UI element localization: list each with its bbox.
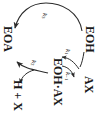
reaction-cycle-diagram: EOA EOH EOH·AX AX H + X k3 k2 k1 k−1 [0, 0, 100, 119]
rate-k2-subscript: 2 [30, 63, 35, 66]
species-label-eoa: EOA [2, 26, 14, 52]
rate-label-k2: k2 [30, 60, 37, 66]
connector-eoh-to-binding [80, 52, 84, 67]
species-label-complex: EOH·AX [52, 58, 64, 106]
rate-k1-subscript: 1 [64, 52, 69, 55]
species-label-ax: AX [83, 76, 95, 93]
species-label-products: H + X [12, 80, 24, 111]
rate-kminus1-subscript: −1 [64, 75, 69, 80]
species-label-eoh: EOH [84, 26, 96, 53]
rate-label-k1: k1 [64, 49, 71, 55]
rate-k3-subscript: 3 [41, 16, 46, 19]
rate-label-k3: k3 [41, 13, 48, 19]
rate-label-kminus1: k−1 [64, 72, 71, 80]
arrow-k3-eoh-to-eoa [15, 3, 82, 31]
